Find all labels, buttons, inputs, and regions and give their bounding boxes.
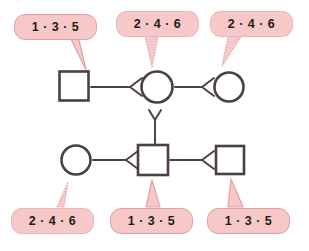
callout-bottom-right-label: 1 · 3 · 5 [225, 215, 273, 228]
callout-bottom-right[interactable]: 1 · 3 · 5 [207, 208, 290, 234]
connector-top-left-to-middle [91, 78, 142, 96]
square-top-left[interactable] [60, 72, 89, 101]
circle-top-middle[interactable] [142, 72, 173, 103]
connector-bottom-middle-to-right [170, 151, 214, 169]
callout-top-right[interactable]: 2 · 4 · 6 [210, 11, 293, 37]
callout-bottom-middle-label: 1 · 3 · 5 [128, 215, 176, 228]
circle-top-right[interactable] [215, 73, 244, 102]
callout-bottom-left-label: 2 · 4 · 6 [29, 215, 77, 228]
callout-top-middle-label: 2 · 4 · 6 [134, 18, 182, 31]
square-bottom-middle[interactable] [138, 145, 168, 175]
pedigree-diagram: 1 · 3 · 52 · 4 · 62 · 4 · 62 · 4 · 61 · … [0, 0, 309, 251]
square-bottom-right[interactable] [216, 146, 244, 174]
circle-bottom-left[interactable] [62, 146, 91, 175]
connector-vertical-fork [149, 110, 161, 145]
callout-top-right-label: 2 · 4 · 6 [228, 18, 276, 31]
callout-top-left[interactable]: 1 · 3 · 5 [14, 14, 97, 40]
connector-top-middle-to-right [175, 78, 214, 96]
callout-bottom-middle[interactable]: 1 · 3 · 5 [110, 208, 193, 234]
callout-top-middle[interactable]: 2 · 4 · 6 [116, 11, 199, 37]
callout-top-left-label: 1 · 3 · 5 [32, 21, 80, 34]
connector-bottom-left-to-middle [93, 151, 138, 169]
callout-bottom-left[interactable]: 2 · 4 · 6 [11, 208, 94, 234]
